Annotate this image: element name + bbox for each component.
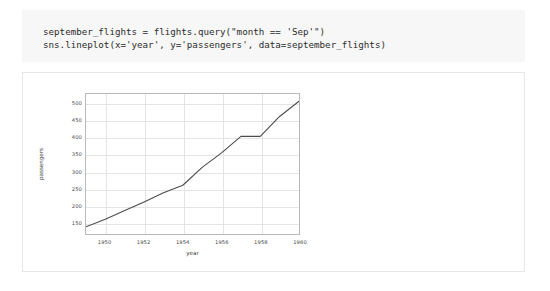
y-tick-label: 200 xyxy=(56,203,82,209)
plot-axes-frame xyxy=(85,93,300,235)
code-line-1: september_flights = flights.query("month… xyxy=(43,25,325,38)
y-tick-label: 300 xyxy=(56,169,82,175)
notebook-cell: september_flights = flights.query("month… xyxy=(22,10,525,272)
line-series-passengers xyxy=(86,94,299,234)
x-tick-label: 1954 xyxy=(168,239,198,245)
x-tick-label: 1950 xyxy=(90,239,120,245)
y-tick-label: 350 xyxy=(56,151,82,157)
y-axis-label: passengers xyxy=(35,93,47,235)
y-tick-label: 150 xyxy=(56,220,82,226)
code-input-block[interactable]: september_flights = flights.query("month… xyxy=(22,10,525,62)
x-axis-label: year xyxy=(85,250,300,256)
y-tick-label: 250 xyxy=(56,186,82,192)
x-tick-label: 1960 xyxy=(285,239,315,245)
lineplot-figure: 150200250300350400450500 195019521954195… xyxy=(33,81,323,263)
y-tick-label: 500 xyxy=(56,100,82,106)
y-axis-ticks: 150200250300350400450500 xyxy=(53,93,82,235)
x-tick-label: 1956 xyxy=(207,239,237,245)
code-output-area: 150200250300350400450500 195019521954195… xyxy=(22,72,525,272)
x-tick-label: 1958 xyxy=(246,239,276,245)
y-tick-label: 450 xyxy=(56,117,82,123)
code-line-2: sns.lineplot(x='year', y='passengers', d… xyxy=(43,38,386,51)
x-axis-ticks: 195019521954195619581960 xyxy=(85,239,300,249)
x-tick-label: 1952 xyxy=(129,239,159,245)
y-tick-label: 400 xyxy=(56,134,82,140)
